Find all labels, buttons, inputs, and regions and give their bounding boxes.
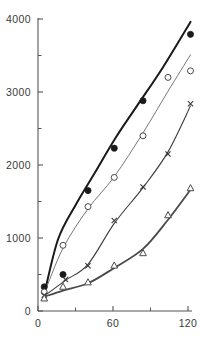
data-point-filled-circle — [60, 271, 66, 277]
data-point-open-triangle — [187, 185, 194, 191]
x-axis-tick-labels: 060120 — [35, 317, 197, 329]
series-markers — [41, 31, 194, 301]
data-point-open-triangle — [165, 212, 172, 218]
x-tick-label: 120 — [179, 317, 198, 329]
y-tick-label: 3000 — [6, 86, 31, 98]
data-point-filled-circle — [111, 145, 117, 151]
data-point-open-circle — [60, 242, 66, 248]
data-point-filled-circle — [140, 98, 146, 104]
y-tick-label: 2000 — [6, 159, 31, 171]
y-axis-tick-labels: 01000200030004000 — [6, 13, 31, 317]
data-point-filled-circle — [187, 31, 193, 37]
data-point-filled-circle — [85, 187, 91, 193]
y-tick-label: 0 — [25, 305, 31, 317]
data-point-open-triangle — [111, 262, 118, 268]
data-point-open-circle — [111, 174, 117, 180]
data-point-cross — [140, 184, 145, 189]
x-tick-label: 0 — [35, 317, 41, 329]
scatter-plot: 01000200030004000 060120 — [0, 0, 200, 346]
curve-filled-circle — [44, 22, 190, 294]
data-point-open-circle — [140, 133, 146, 139]
chart-container: 01000200030004000 060120 — [0, 0, 200, 346]
curve-open-circle — [44, 55, 190, 294]
x-tick-label: 60 — [107, 317, 119, 329]
data-point-open-circle — [188, 68, 194, 74]
y-tick-label: 1000 — [6, 232, 31, 244]
series-curves — [44, 22, 190, 297]
data-point-open-circle — [85, 204, 91, 210]
y-tick-label: 4000 — [6, 13, 31, 25]
data-point-open-circle — [165, 74, 171, 80]
